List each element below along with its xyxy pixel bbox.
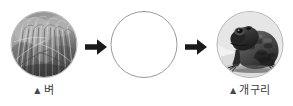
frog-image xyxy=(218,12,283,77)
rice-circle-wrap xyxy=(11,11,78,78)
frog-photo-circle xyxy=(217,11,284,78)
frog-circle-wrap xyxy=(217,11,284,78)
rice-field-image xyxy=(12,12,77,77)
frog-caption: ▲개구리 xyxy=(205,84,293,98)
rice-caption-label: 벼 xyxy=(44,84,54,98)
blank-answer-circle[interactable] xyxy=(111,11,178,78)
diagram-stage-blank[interactable] xyxy=(99,0,189,106)
caption-triangle-icon: ▲ xyxy=(230,84,236,98)
caption-triangle-icon: ▲ xyxy=(34,84,40,98)
blank-circle-wrap xyxy=(111,11,178,78)
diagram-stage-frog[interactable]: ▲개구리 xyxy=(205,0,293,106)
rice-caption: ▲벼 xyxy=(0,84,89,98)
rice-photo-circle xyxy=(11,11,78,78)
frog-caption-label: 개구리 xyxy=(239,84,270,98)
diagram-stage-rice[interactable]: ▲벼 xyxy=(0,0,89,106)
food-chain-diagram: ▲벼 xyxy=(0,0,293,106)
blank-caption xyxy=(99,84,189,98)
